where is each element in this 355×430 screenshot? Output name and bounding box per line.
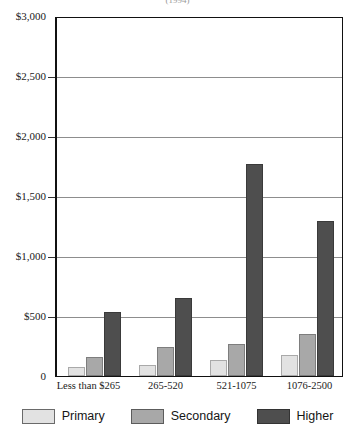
y-axis-labels: $3,000$2,500$2,000$1,500$1,000$5000 bbox=[0, 0, 50, 430]
bar-primary bbox=[139, 365, 156, 376]
legend-label: Primary bbox=[62, 410, 105, 423]
legend-item-secondary[interactable]: Secondary bbox=[131, 409, 231, 424]
bar-secondary bbox=[299, 334, 316, 376]
bar-higher bbox=[246, 164, 263, 376]
y-axis-tickmark bbox=[48, 137, 55, 138]
legend-swatch-icon bbox=[131, 409, 164, 424]
chart-title-truncated: (1994) bbox=[0, 0, 355, 11]
legend-label: Secondary bbox=[171, 410, 231, 423]
chart-legend: PrimarySecondaryHigher bbox=[0, 404, 355, 428]
x-axis-category-label: Less than $265 bbox=[53, 379, 124, 392]
bar-higher bbox=[317, 221, 334, 376]
legend-swatch-icon bbox=[257, 409, 290, 424]
bar-group bbox=[270, 18, 341, 376]
bar-primary bbox=[210, 360, 227, 376]
bar-secondary bbox=[86, 357, 103, 376]
y-axis-tick-label: 0 bbox=[41, 371, 47, 382]
y-axis-tick-label: $2,000 bbox=[16, 131, 46, 142]
chart-title-text: (1994) bbox=[166, 0, 190, 4]
y-axis-tick-label: $500 bbox=[24, 311, 46, 322]
bar-higher bbox=[175, 298, 192, 376]
bar-secondary bbox=[228, 344, 245, 376]
y-axis-tickmark bbox=[48, 197, 55, 198]
bar-group bbox=[199, 18, 270, 376]
bar-primary bbox=[68, 367, 85, 376]
bar-higher bbox=[104, 312, 121, 376]
y-axis-tick-label: $1,500 bbox=[16, 191, 46, 202]
y-axis-tick-label: $1,000 bbox=[16, 251, 46, 262]
x-axis-category-label: 265-520 bbox=[130, 379, 201, 392]
bar-group bbox=[128, 18, 199, 376]
bar-primary bbox=[281, 355, 298, 376]
y-axis-tickmark bbox=[48, 77, 55, 78]
legend-item-primary[interactable]: Primary bbox=[22, 409, 105, 424]
bar-secondary bbox=[157, 347, 174, 376]
y-axis-tick-label: $3,000 bbox=[16, 11, 46, 22]
legend-label: Higher bbox=[297, 410, 334, 423]
bar-groups bbox=[57, 18, 341, 376]
x-axis-category-label: 521-1075 bbox=[201, 379, 272, 392]
y-axis-tick-label: $2,500 bbox=[16, 71, 46, 82]
y-axis-tickmark bbox=[48, 317, 55, 318]
legend-swatch-icon bbox=[22, 409, 55, 424]
y-axis-tickmark bbox=[48, 257, 55, 258]
bar-group bbox=[57, 18, 128, 376]
bar-chart: (1994) $3,000$2,500$2,000$1,500$1,000$50… bbox=[0, 0, 355, 430]
x-axis-labels: Less than $265265-520521-10751076-2500 bbox=[55, 379, 343, 395]
legend-item-higher[interactable]: Higher bbox=[257, 409, 334, 424]
x-axis-category-label: 1076-2500 bbox=[274, 379, 345, 392]
